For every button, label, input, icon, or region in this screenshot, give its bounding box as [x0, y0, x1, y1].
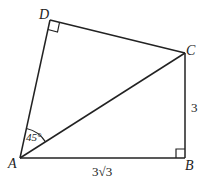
segment-cd: [50, 20, 185, 53]
segment-ac: [20, 53, 185, 158]
right-angle-mark-b: [176, 149, 185, 158]
quadrilateral-diagram: A B C D 3 3√3 45°: [0, 0, 207, 184]
point-label-c: C: [186, 43, 196, 58]
point-label-a: A: [7, 156, 17, 171]
length-label-ab: 3√3: [92, 164, 112, 179]
length-label-bc: 3: [191, 100, 198, 115]
point-label-b: B: [185, 158, 194, 173]
point-label-d: D: [38, 7, 49, 22]
angle-label-dac: 45°: [26, 131, 42, 143]
